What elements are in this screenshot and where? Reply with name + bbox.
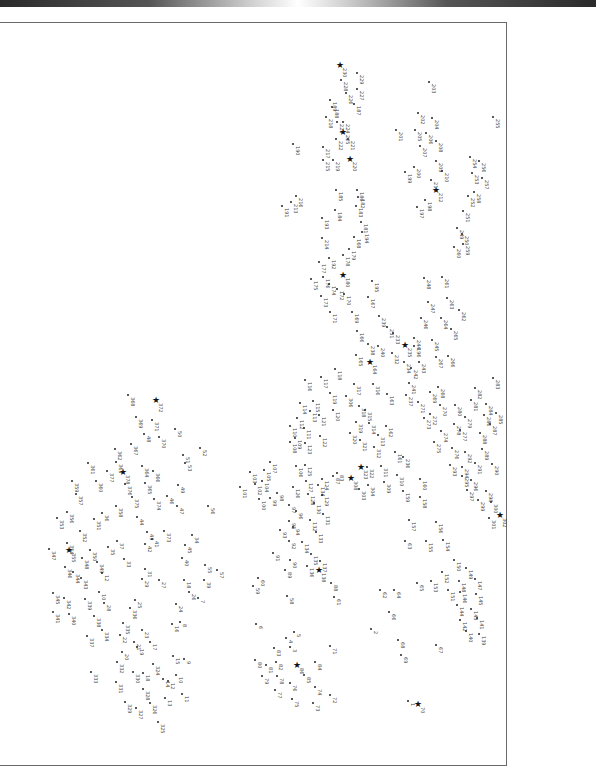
dot-number-label: 140 bbox=[468, 633, 473, 643]
dot-number-label: 337 bbox=[89, 638, 94, 648]
dot-number-label: 59 bbox=[255, 588, 260, 594]
dot-number-label: 116 bbox=[307, 382, 312, 392]
dot-number-label: 90 bbox=[292, 562, 297, 568]
dot-point bbox=[356, 189, 358, 191]
dot-point bbox=[404, 171, 406, 173]
dot-number-label: 69 bbox=[403, 657, 408, 663]
dot-number-label: 345 bbox=[55, 595, 60, 605]
dot-number-label: 91 bbox=[275, 555, 280, 561]
dot-point bbox=[366, 466, 368, 468]
dot-point bbox=[166, 495, 168, 497]
dot-point bbox=[292, 486, 294, 488]
dot-point bbox=[478, 160, 480, 162]
dot-number-label: 10 bbox=[178, 677, 183, 683]
dot-point bbox=[175, 674, 177, 676]
dot-number-label: 31 bbox=[147, 571, 152, 577]
dot-number-label: 149 bbox=[468, 570, 473, 580]
dot-number-label: 203 bbox=[431, 84, 436, 94]
dot-point bbox=[429, 413, 431, 415]
dot-point bbox=[72, 571, 74, 573]
dot-point bbox=[293, 631, 295, 633]
dot-number-label: 195 bbox=[374, 283, 379, 293]
dot-number-label: 284 bbox=[488, 406, 493, 416]
dot-point bbox=[143, 433, 145, 435]
dot-point bbox=[492, 116, 494, 118]
dot-number-label: 283 bbox=[495, 380, 500, 390]
dot-point bbox=[413, 345, 415, 347]
dot-number-label: 104 bbox=[264, 483, 269, 493]
dot-point bbox=[410, 367, 412, 369]
dot-number-label: 347 bbox=[51, 551, 56, 561]
dot-point bbox=[216, 569, 218, 571]
dot-point bbox=[430, 580, 432, 582]
dot-point bbox=[353, 236, 355, 238]
dot-number-label: 299 bbox=[480, 502, 485, 512]
dot-point bbox=[342, 121, 344, 123]
dot-number-label: 63 bbox=[407, 543, 412, 549]
dot-number-label: 114 bbox=[302, 405, 307, 415]
dot-number-label: 72 bbox=[332, 697, 337, 703]
dot-number-label: 373 bbox=[166, 533, 171, 543]
dot-point bbox=[101, 512, 103, 514]
dot-number-label: 143 bbox=[473, 611, 478, 621]
dot-number-label: 70 bbox=[420, 707, 425, 713]
dot-point bbox=[63, 597, 65, 599]
dot-point bbox=[199, 447, 201, 449]
dot-number-label: 67 bbox=[438, 647, 443, 653]
dot-point bbox=[402, 490, 404, 492]
dot-number-label: 190 bbox=[295, 146, 300, 156]
dot-number-label: 175 bbox=[313, 281, 318, 291]
dot-number-label: 290 bbox=[494, 466, 499, 476]
dot-number-label: 139 bbox=[481, 636, 486, 646]
dot-number-label: 74 bbox=[317, 689, 322, 695]
dot-number-label: 191 bbox=[284, 208, 289, 218]
dot-number-label: 355 bbox=[71, 553, 76, 563]
dot-number-label: 101 bbox=[242, 489, 247, 499]
dot-point bbox=[368, 422, 370, 424]
dot-number-label: 339 bbox=[87, 601, 92, 611]
dot-number-label: 222 bbox=[338, 141, 343, 151]
dot-number-label: 300 bbox=[493, 504, 498, 514]
dot-point bbox=[478, 633, 480, 635]
dot-number-label: 372 bbox=[158, 403, 163, 413]
dot-number-label: 247 bbox=[430, 304, 435, 314]
dot-point bbox=[257, 577, 259, 579]
dot-point bbox=[345, 395, 347, 397]
dot-number-label: 131 bbox=[325, 516, 330, 526]
dot-number-label: 79 bbox=[264, 678, 269, 684]
dot-number-label: 20 bbox=[124, 654, 129, 660]
dot-point bbox=[328, 283, 330, 285]
dot-number-label: 167 bbox=[370, 299, 375, 309]
dot-number-label: 292 bbox=[467, 454, 472, 464]
dot-number-label: 17 bbox=[152, 644, 157, 650]
dot-point bbox=[459, 429, 461, 431]
dot-point bbox=[431, 117, 433, 119]
dot-point bbox=[328, 257, 330, 259]
dot-number-label: 29 bbox=[144, 581, 149, 587]
dot-number-label: 228 bbox=[343, 82, 348, 92]
dot-number-label: 123 bbox=[307, 445, 312, 455]
dot-number-label: 338 bbox=[96, 618, 101, 628]
dot-point bbox=[334, 368, 336, 370]
dot-point bbox=[123, 558, 125, 560]
dot-number-label: 252 bbox=[470, 198, 475, 208]
dot-point bbox=[329, 311, 331, 313]
dot-number-label: 326 bbox=[152, 705, 157, 715]
dot-point bbox=[163, 530, 165, 532]
dot-point bbox=[141, 578, 143, 580]
dot-point bbox=[130, 443, 132, 445]
dot-number-label: 151 bbox=[450, 592, 455, 602]
dot-number-label: 24 bbox=[178, 606, 183, 612]
dot-point bbox=[87, 462, 89, 464]
dot-point bbox=[289, 682, 291, 684]
dot-number-label: 254 bbox=[472, 159, 477, 169]
dot-point bbox=[188, 591, 190, 593]
dot-number-label: 178 bbox=[345, 257, 350, 267]
dot-number-label: 82 bbox=[278, 664, 283, 670]
dot-point bbox=[174, 428, 176, 430]
dot-number-label: 23 bbox=[144, 632, 149, 638]
dot-point bbox=[135, 707, 137, 709]
dot-number-label: 336 bbox=[132, 610, 137, 620]
dot-number-label: 212 bbox=[438, 193, 443, 203]
dot-number-label: 155 bbox=[428, 543, 433, 553]
